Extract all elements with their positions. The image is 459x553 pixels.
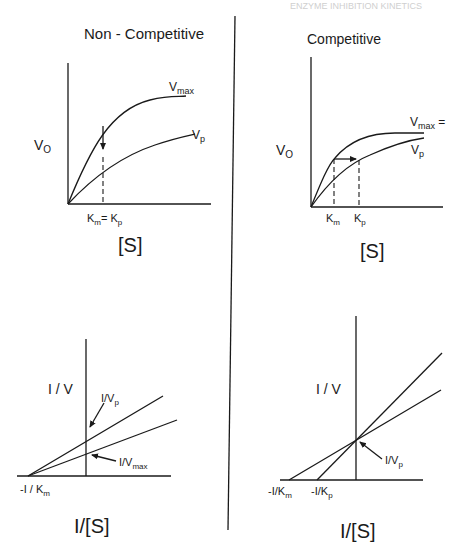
reciprocal-v-axis-label: I / V [48,381,74,397]
vp-curve [311,138,424,207]
reciprocal-v-axis-label: I / V [316,381,342,397]
inhibited-line [317,353,442,480]
noncompetitive-direct-plot: Non - Competitive Vmax Vp VO Km= Kp [S] [34,25,211,256]
competitive-direct-plot: Competitive Vmax = Vp VO Km Kp [S] [276,31,445,262]
inv-vp-label: I/Vp [385,454,403,469]
neg-inv-km-label: -I/Km [268,485,292,500]
arrow-vp-icon [90,403,104,427]
competitive-lineweaver-burk-plot: I / V I/Vp -I/Km -I/Kp I/[S] [268,316,442,542]
neg-inv-km-label: -I / Km [20,483,50,498]
vmax-label: Vmax [169,80,195,96]
km-eq-kp-label: Km= Kp [87,212,123,227]
uninhibited-line [28,420,177,476]
vp-label: Vp [192,128,205,144]
vmax-curve [311,133,424,207]
inv-substrate-axis-label: I/[S] [340,520,376,542]
panel-divider [228,16,235,530]
neg-inv-kp-label: -I/Kp [311,485,333,500]
kinetics-figure: ENZYME INHIBITION KINETICS Non - Competi… [0,0,459,553]
vp-label: Vp [411,143,424,159]
competitive-title: Competitive [307,31,381,47]
inv-vmax-label: I/Vmax [119,456,148,471]
vmax-label: Vmax = [410,115,445,131]
noncompetitive-lineweaver-burk-plot: I / V I/Vp I/Vmax -I / Km I/[S] [17,339,177,537]
kp-label: Kp [354,212,366,227]
substrate-axis-label: [S] [360,240,384,262]
substrate-axis-label: [S] [118,234,142,256]
arrow-vp-icon [360,442,382,459]
arrow-vmax-icon [92,455,116,461]
km-label: Km [326,212,340,227]
inv-substrate-axis-label: I/[S] [74,515,110,537]
running-head: ENZYME INHIBITION KINETICS [290,1,422,11]
vmax-curve [68,96,186,204]
noncompetitive-title: Non - Competitive [84,25,204,42]
v0-axis-label: VO [34,137,51,155]
vp-curve [68,134,195,204]
inv-vp-label: I/Vp [101,392,119,407]
v0-axis-label: VO [276,142,293,160]
uninhibited-line [289,390,441,480]
